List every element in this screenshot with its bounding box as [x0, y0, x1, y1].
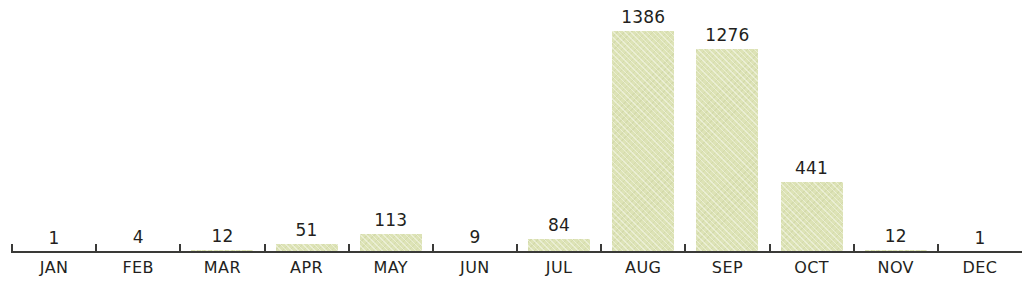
x-axis-tick — [769, 244, 771, 253]
x-axis-label-jun: JUN — [433, 258, 517, 278]
bar-column: 441 — [770, 0, 854, 252]
bar-value-label-jan: 1 — [49, 230, 60, 247]
bar-oct[interactable] — [781, 182, 843, 252]
x-axis-label-dec: DEC — [938, 258, 1022, 278]
bar-column: 1276 — [685, 0, 769, 252]
x-axis-tick — [179, 244, 181, 253]
bar-column: 51 — [265, 0, 349, 252]
x-axis-line — [12, 251, 1022, 253]
x-axis-label-jul: JUL — [517, 258, 601, 278]
x-axis-label-oct: OCT — [770, 258, 854, 278]
bar-column: 9 — [433, 0, 517, 252]
bar-value-label-nov: 12 — [885, 228, 907, 245]
x-axis-label-may: MAY — [349, 258, 433, 278]
x-axis-label-mar: MAR — [180, 258, 264, 278]
x-axis-label-apr: APR — [265, 258, 349, 278]
bar-chart: 14125111398413861276441121 JANFEBMARAPRM… — [0, 0, 1035, 297]
x-axis-label-nov: NOV — [854, 258, 938, 278]
x-axis-tick — [95, 244, 97, 253]
bar-value-label-sep: 1276 — [705, 27, 749, 44]
x-axis-tick — [600, 244, 602, 253]
bar-value-label-may: 113 — [374, 212, 407, 229]
bar-column: 4 — [96, 0, 180, 252]
x-axis-tick — [516, 244, 518, 253]
bar-may[interactable] — [360, 234, 422, 252]
x-axis-tick — [348, 244, 350, 253]
x-axis-tick — [684, 244, 686, 253]
bar-value-label-jun: 9 — [469, 229, 480, 246]
bar-value-label-apr: 51 — [296, 222, 318, 239]
x-axis-tick — [264, 244, 266, 253]
x-axis-label-sep: SEP — [685, 258, 769, 278]
bar-value-label-mar: 12 — [211, 228, 233, 245]
bar-value-label-dec: 1 — [974, 230, 985, 247]
bar-sep[interactable] — [696, 49, 758, 252]
x-axis-tick — [432, 244, 434, 253]
x-axis-category-labels: JANFEBMARAPRMAYJUNJULAUGSEPOCTNOVDEC — [12, 258, 1022, 284]
x-axis-label-jan: JAN — [12, 258, 96, 278]
bar-column: 12 — [854, 0, 938, 252]
bar-column: 1 — [12, 0, 96, 252]
x-axis-tick — [11, 244, 13, 253]
bar-aug[interactable] — [612, 31, 674, 252]
x-axis-tick — [937, 244, 939, 253]
bar-column: 113 — [349, 0, 433, 252]
x-axis-label-feb: FEB — [96, 258, 180, 278]
bar-column: 1 — [938, 0, 1022, 252]
bar-column: 84 — [517, 0, 601, 252]
bar-value-label-feb: 4 — [133, 229, 144, 246]
bar-value-label-oct: 441 — [795, 160, 828, 177]
plot-area: 14125111398413861276441121 — [12, 0, 1022, 252]
bar-value-label-jul: 84 — [548, 217, 570, 234]
bar-column: 12 — [180, 0, 264, 252]
bar-jul[interactable] — [528, 239, 590, 252]
x-axis-label-aug: AUG — [601, 258, 685, 278]
bar-column: 1386 — [601, 0, 685, 252]
x-axis-tick — [853, 244, 855, 253]
bar-value-label-aug: 1386 — [621, 9, 665, 26]
